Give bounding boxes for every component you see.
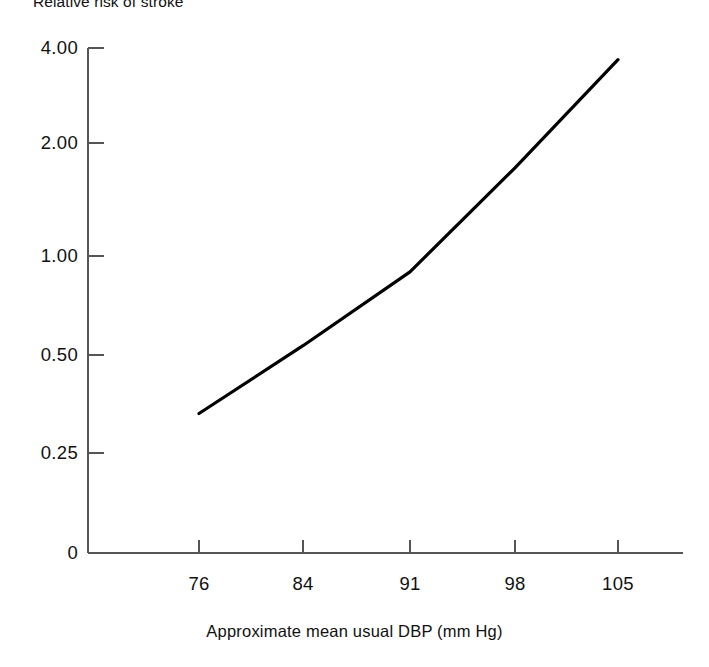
y-tick-label-0: 0 — [8, 542, 78, 564]
x-axis-title: Approximate mean usual DBP (mm Hg) — [0, 622, 709, 641]
x-tick-label-76: 76 — [164, 573, 234, 595]
x-tick-label-98: 98 — [480, 573, 550, 595]
plot-area — [0, 0, 709, 667]
y-tick-label-0.50: 0.50 — [8, 344, 78, 366]
y-tick-label-2.00: 2.00 — [8, 132, 78, 154]
y-tick-label-1.00: 1.00 — [8, 245, 78, 267]
y-tick-label-0.25: 0.25 — [8, 442, 78, 464]
y-axis-ticks — [88, 48, 104, 453]
y-tick-label-4.00: 4.00 — [8, 37, 78, 59]
x-tick-label-105: 105 — [583, 573, 653, 595]
x-axis-ticks — [199, 540, 618, 553]
data-series-line — [199, 60, 618, 414]
x-tick-label-91: 91 — [375, 573, 445, 595]
chart-figure: Relative risk of stroke 4.00 2.00 1.00 0… — [0, 0, 709, 667]
x-tick-label-84: 84 — [268, 573, 338, 595]
